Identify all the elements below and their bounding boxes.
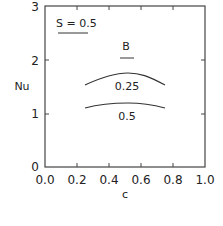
x-tick-label: 0.8 [163, 173, 182, 187]
x-tick-label: 0.2 [67, 173, 86, 187]
x-tick-label: 0.6 [131, 173, 150, 187]
x-tick-label: 0.0 [35, 173, 54, 187]
y-tick-label: 2 [31, 54, 39, 68]
x-tick-label: 0.4 [99, 173, 118, 187]
y-tick-label: 0 [31, 160, 39, 174]
y-tick-label: 3 [31, 0, 39, 14]
legend-header: B [122, 40, 130, 53]
chart: 0.0 0.2 0.4 0.6 0.8 1.0 0 1 2 3 c Nu S =… [0, 0, 223, 226]
y-axis-title: Nu [14, 80, 29, 93]
x-axis-title: c [122, 188, 128, 201]
curve-label: 0.25 [115, 80, 140, 93]
x-tick-label: 1.0 [195, 173, 214, 187]
y-tick-label: 1 [31, 107, 39, 121]
curve-label: 0.5 [118, 110, 136, 123]
curve-b-0.5 [85, 103, 165, 108]
parameter-annotation: S = 0.5 [56, 17, 97, 30]
